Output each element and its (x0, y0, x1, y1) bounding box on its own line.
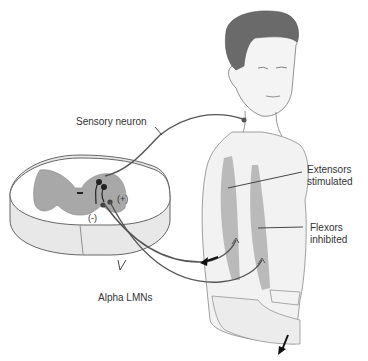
label-extensors-line1: Extensors (307, 164, 353, 176)
label-flexors-line2: inhibited (310, 234, 347, 246)
spinal-cord-section (10, 155, 170, 255)
label-minus: (-) (88, 212, 97, 224)
label-flexors-line1: Flexors (310, 222, 347, 234)
label-plus: (+) (117, 193, 128, 205)
label-extensors: Extensors stimulated (307, 164, 353, 188)
label-extensors-line2: stimulated (307, 176, 353, 188)
label-flexors: Flexors inhibited (310, 222, 347, 246)
label-alpha-lmns: Alpha LMNs (98, 292, 152, 304)
person-figure (202, 11, 308, 344)
label-sensory-neuron: Sensory neuron (76, 116, 147, 128)
